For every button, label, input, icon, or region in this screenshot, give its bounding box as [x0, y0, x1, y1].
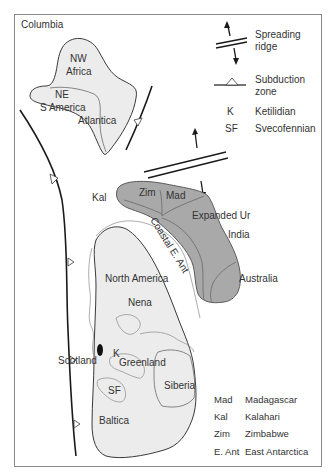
- label-kal: Kal: [92, 192, 106, 203]
- legend-abbr-kal: Kal: [214, 411, 228, 422]
- legend-name-ketilidian: Ketilidian: [255, 106, 296, 117]
- label-expanded-ur: Expanded Ur: [192, 210, 251, 221]
- legend-abbr-sf: SF: [225, 123, 238, 134]
- legend-spreading-label-1: Spreading: [255, 29, 301, 40]
- legend-name-madagascar: Madagascar: [245, 394, 297, 405]
- label-baltica: Baltica: [99, 415, 129, 426]
- columbia-supercontinent-map: Columbia NW Africa NE S America Atlantic…: [0, 0, 330, 475]
- label-india: India: [228, 229, 250, 240]
- label-africa: Africa: [66, 66, 92, 77]
- legend-subduction-label-2: zone: [255, 86, 277, 97]
- label-mad: Mad: [166, 190, 185, 201]
- label-s-america: S America: [40, 102, 86, 113]
- legend-subduction-label-1: Subduction: [255, 74, 305, 85]
- label-australia: Australia: [239, 273, 278, 284]
- label-greenland: Greenland: [119, 357, 166, 368]
- legend-abbr-k: K: [227, 106, 234, 117]
- legend-name-svecofennian: Svecofennian: [255, 123, 316, 134]
- label-ne: NE: [55, 89, 69, 100]
- label-scotland: Scotland: [58, 355, 97, 366]
- legend-name-east-antarctica: East Antarctica: [245, 446, 309, 457]
- legend-name-kalahari: Kalahari: [245, 411, 280, 422]
- label-nw: NW: [70, 53, 87, 64]
- label-north-america: North America: [105, 273, 169, 284]
- label-siberia: Siberia: [164, 380, 196, 391]
- legend-abbr-mad: Mad: [214, 394, 232, 405]
- legend-abbr-zim: Zim: [214, 428, 230, 439]
- label-atlantica: Atlantica: [78, 115, 117, 126]
- scotland-marker: [97, 344, 103, 356]
- legend-abbr-e-ant: E. Ant: [214, 446, 240, 457]
- label-zim: Zim: [139, 187, 156, 198]
- label-nena: Nena: [128, 297, 152, 308]
- map-title: Columbia: [21, 19, 64, 30]
- legend-spreading-label-2: ridge: [255, 41, 278, 52]
- legend-name-zimbabwe: Zimbabwe: [245, 428, 289, 439]
- label-sf: SF: [108, 385, 121, 396]
